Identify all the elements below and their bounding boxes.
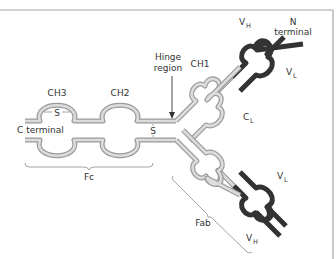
ch1-label: CH1 <box>191 59 210 69</box>
fc-label: Fc <box>84 172 94 182</box>
cl-label: C L <box>243 112 254 125</box>
antibody-diagram: S S CH3 CH2 CH1 Hinge regi <box>0 0 336 259</box>
fab-label: Fab <box>195 218 211 228</box>
svg-text:V: V <box>277 171 284 181</box>
svg-text:L: L <box>284 176 288 184</box>
vl-label-lower: V L <box>277 171 288 184</box>
hinge-label-line1: Hinge <box>155 52 182 62</box>
vl-label-upper: V L <box>286 67 297 80</box>
hinge-arrow <box>169 76 175 119</box>
disulfide-bond-hinge: S <box>150 124 156 137</box>
svg-text:V: V <box>239 17 246 27</box>
svg-text:L: L <box>293 72 297 80</box>
svg-text:V: V <box>246 233 253 243</box>
vh-label-upper: V H <box>239 17 251 30</box>
n-terminal-label-line2: terminal <box>274 27 312 37</box>
vh-label-lower: V H <box>246 233 258 246</box>
ch2-label: CH2 <box>111 88 130 98</box>
fc-bracket <box>25 163 153 170</box>
svg-text:V: V <box>286 67 293 77</box>
n-terminal-label-line1: N <box>290 17 297 27</box>
svg-text:H: H <box>253 238 258 246</box>
fab-bracket <box>172 176 252 253</box>
svg-text:H: H <box>246 22 251 30</box>
ch3-label: CH3 <box>48 88 67 98</box>
disulfide-label-ch3: S <box>54 108 60 118</box>
fc-upper-chain <box>25 105 176 121</box>
fc-lower-chain <box>25 140 176 156</box>
svg-text:L: L <box>250 117 254 125</box>
svg-text:C: C <box>243 112 249 122</box>
disulfide-label-hinge: S <box>150 126 156 136</box>
hinge-label-line2: region <box>154 63 182 73</box>
c-terminal-label: C terminal <box>17 125 64 135</box>
